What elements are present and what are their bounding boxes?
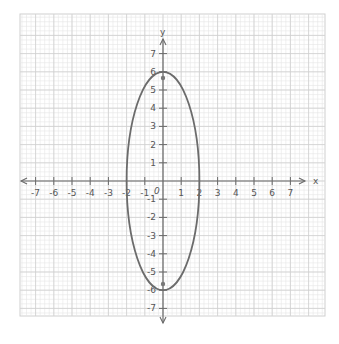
- x-tick-label: -6: [49, 188, 58, 198]
- x-tick-label: -3: [104, 188, 113, 198]
- focus-top-point: [161, 76, 165, 80]
- y-tick-label: 2: [150, 140, 156, 150]
- grid: [20, 14, 325, 316]
- x-tick-label: 6: [269, 188, 275, 198]
- y-tick-label: 7: [150, 49, 156, 59]
- x-tick-label: -4: [86, 188, 95, 198]
- y-tick-label: 4: [150, 103, 156, 113]
- x-tick-label: 7: [288, 188, 294, 198]
- y-tick-label: 1: [150, 158, 156, 168]
- x-axis-label: x: [313, 176, 319, 186]
- y-axis-label: y: [160, 27, 166, 37]
- y-tick-label: 5: [150, 85, 156, 95]
- y-tick-label: -5: [147, 267, 156, 277]
- grid-border: [20, 14, 325, 316]
- y-tick-label: 3: [150, 121, 156, 131]
- ellipse-graph: -7-6-5-4-3-2-112345677654321-1-2-3-4-5-6…: [0, 0, 339, 344]
- y-tick-label: -3: [147, 231, 156, 241]
- origin-label: 0: [154, 186, 160, 196]
- y-tick-label: -7: [147, 303, 156, 313]
- coordinate-plane: -7-6-5-4-3-2-112345677654321-1-2-3-4-5-6…: [0, 0, 339, 344]
- x-tick-label: -5: [68, 188, 77, 198]
- y-tick-label: -2: [147, 212, 156, 222]
- x-tick-label: 3: [215, 188, 221, 198]
- x-tick-label: 1: [178, 188, 184, 198]
- x-tick-label: 5: [251, 188, 257, 198]
- focus-bottom-point: [161, 282, 165, 286]
- x-tick-label: -7: [31, 188, 40, 198]
- x-tick-label: 4: [233, 188, 239, 198]
- y-tick-label: -4: [147, 249, 156, 259]
